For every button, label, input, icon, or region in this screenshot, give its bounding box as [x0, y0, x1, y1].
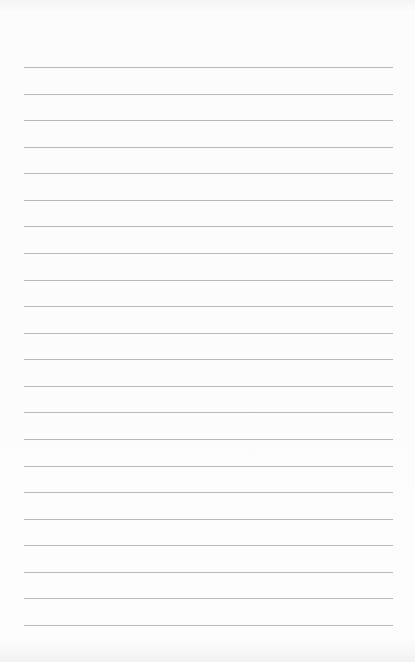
ruled-line	[24, 226, 393, 227]
ruled-line	[24, 519, 393, 520]
ruled-line	[24, 386, 393, 387]
ruled-line	[24, 253, 393, 254]
ruled-line	[24, 572, 393, 573]
ruled-line	[24, 466, 393, 467]
ruled-line	[24, 359, 393, 360]
ruled-line	[24, 625, 393, 626]
ruled-line	[24, 120, 393, 121]
notepad-page	[0, 0, 415, 662]
ruled-line	[24, 598, 393, 599]
ruled-line	[24, 439, 393, 440]
ruled-line	[24, 67, 393, 68]
ruled-line	[24, 147, 393, 148]
ruled-line	[24, 412, 393, 413]
ruled-line	[24, 492, 393, 493]
ruled-line	[24, 545, 393, 546]
ruled-line	[24, 200, 393, 201]
ruled-line	[24, 173, 393, 174]
ruled-line	[24, 333, 393, 334]
ruled-line	[24, 280, 393, 281]
ruled-line	[24, 306, 393, 307]
ruled-line	[24, 94, 393, 95]
